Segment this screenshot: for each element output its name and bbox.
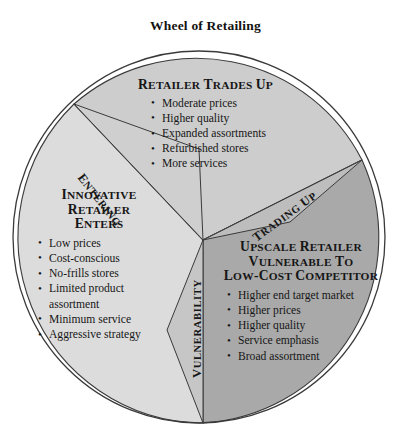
bullet-list-upscale-retailer-vulnerable: Higher end target market Higher prices H… xyxy=(227,288,392,364)
heading-line-3: ENTERS xyxy=(34,217,164,232)
list-item: Limited product xyxy=(38,281,184,296)
list-item-continuation: assortment xyxy=(38,297,184,312)
bullet-list-retailer-trades-up: Moderate prices Higher quality Expanded … xyxy=(151,96,266,172)
bullet-list-innovative-retailer-enters: Low prices Cost-conscious No-frills stor… xyxy=(38,236,184,342)
list-item: Expanded assortments xyxy=(151,126,266,141)
list-item: Minimum service xyxy=(38,312,184,327)
list-item: Higher prices xyxy=(227,303,392,318)
wheel-of-retailing-figure: Wheel of Retailing RETAILER TRADES UP Mo… xyxy=(0,0,411,442)
list-item: Low prices xyxy=(38,236,184,251)
list-item: Higher quality xyxy=(151,111,266,126)
list-item: No-frills stores xyxy=(38,266,184,281)
list-item: Broad assortment xyxy=(227,349,392,364)
heading-line-1: UPSCALE RETAILER xyxy=(212,240,390,255)
list-item: Service emphasis xyxy=(227,333,392,348)
sector-text-retailer-trades-up: RETAILER TRADES UP Moderate prices Highe… xyxy=(0,78,411,172)
list-item: Higher end target market xyxy=(227,288,392,303)
sector-text-upscale-retailer-vulnerable: UPSCALE RETAILER VULNERABLE TO LOW-COST … xyxy=(212,240,392,364)
connector-label-vulnerability: VULNERABILITY xyxy=(190,279,205,378)
list-item: Cost-conscious xyxy=(38,251,184,266)
list-item: More services xyxy=(151,156,266,171)
heading-line-3: LOW-COST COMPETITOR xyxy=(212,269,390,284)
sector-heading-upscale-retailer-vulnerable: UPSCALE RETAILER VULNERABLE TO LOW-COST … xyxy=(212,240,390,284)
heading-line-2: VULNERABLE TO xyxy=(212,255,390,270)
list-item: Aggressive strategy xyxy=(38,327,184,342)
list-item: Moderate prices xyxy=(151,96,266,111)
list-item: Higher quality xyxy=(227,318,392,333)
list-item: Refurbished stores xyxy=(151,141,266,156)
sector-heading-retailer-trades-up: RETAILER TRADES UP xyxy=(0,78,411,93)
